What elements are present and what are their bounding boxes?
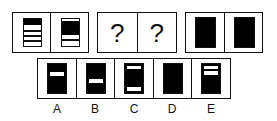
unknown-cell-1: ?	[98, 13, 137, 52]
sequence-group-3	[185, 12, 263, 53]
sequence-group-2: ? ?	[97, 12, 177, 53]
option-c-label: C	[124, 102, 144, 116]
sequence-1-cell-2	[50, 13, 88, 52]
option-e-figure	[201, 63, 221, 94]
black-rectangle-figure	[234, 17, 255, 48]
option-b-figure	[86, 63, 106, 94]
sequence-1-cell-1	[13, 13, 50, 52]
sequence-group-1	[12, 12, 89, 53]
option-b[interactable]	[76, 59, 115, 98]
option-a[interactable]	[38, 59, 76, 98]
striped-rectangle-figure	[23, 18, 42, 47]
question-mark: ?	[98, 17, 137, 48]
option-e[interactable]	[191, 59, 230, 98]
question-mark: ?	[138, 17, 177, 48]
option-b-label: B	[85, 102, 105, 116]
option-d-label: D	[162, 102, 182, 116]
striped-rectangle-figure	[61, 18, 80, 47]
option-a-label: A	[47, 102, 67, 116]
option-e-label: E	[201, 102, 221, 116]
options-group	[37, 58, 231, 99]
option-d[interactable]	[153, 59, 192, 98]
option-c-figure	[124, 63, 144, 94]
sequence-3-cell-2	[224, 13, 263, 52]
option-a-figure	[47, 63, 67, 94]
unknown-cell-2: ?	[137, 13, 177, 52]
option-d-figure	[163, 63, 183, 94]
option-c[interactable]	[114, 59, 153, 98]
sequence-3-cell-1	[186, 13, 224, 52]
black-rectangle-figure	[195, 17, 216, 48]
